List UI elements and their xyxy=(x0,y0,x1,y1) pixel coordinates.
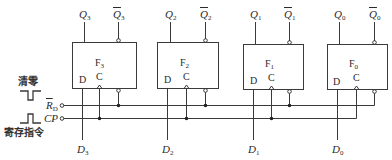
f0-c-pin: C xyxy=(353,72,360,84)
output-q0-bar-label: Q0 xyxy=(369,8,380,24)
flip-flop-f3-name: F3 xyxy=(95,57,104,72)
output-q3-label: Q3 xyxy=(79,8,90,24)
f1-d-pin: D xyxy=(250,75,257,87)
output-q2-label: Q2 xyxy=(165,8,176,24)
input-d1-label: D1 xyxy=(248,143,259,159)
clear-pulse-label: 清零 xyxy=(18,76,38,88)
f3-d-pin: D xyxy=(79,74,86,86)
input-d0-label: D0 xyxy=(332,143,343,159)
flip-flop-f2-name: F2 xyxy=(180,57,189,72)
f2-c-pin: C xyxy=(183,71,190,83)
input-d3-label: D3 xyxy=(77,143,88,159)
store-pulse-label: 寄存指令 xyxy=(4,127,44,139)
output-q2-bar-label: Q2 xyxy=(200,8,211,24)
output-q1-bar-label: Q1 xyxy=(284,8,295,24)
clock-input-label: CP xyxy=(44,112,58,124)
f3-c-pin: C xyxy=(96,71,103,83)
output-q0-label: Q0 xyxy=(334,8,345,24)
output-q1-label: Q1 xyxy=(250,8,261,24)
flip-flop-f1-name: F1 xyxy=(265,58,274,73)
f1-c-pin: C xyxy=(268,72,275,84)
f2-d-pin: D xyxy=(164,74,171,86)
flip-flop-f0-name: F0 xyxy=(349,58,358,73)
output-q3-bar-label: Q3 xyxy=(113,8,124,24)
f0-d-pin: D xyxy=(333,76,340,88)
input-d2-label: D2 xyxy=(162,143,173,159)
